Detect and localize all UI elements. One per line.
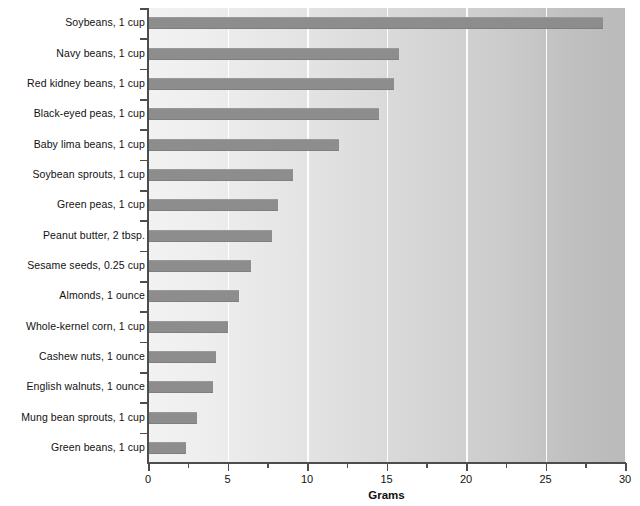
x-axis-minor-tick — [267, 463, 269, 468]
category-label: Peanut butter, 2 tbsp. — [0, 230, 145, 241]
y-axis-tick — [140, 311, 148, 313]
category-label: English walnuts, 1 ounce — [0, 381, 145, 392]
x-axis-tick — [307, 463, 309, 471]
y-axis-tick — [140, 251, 148, 253]
category-label: Red kidney beans, 1 cup — [0, 78, 145, 89]
category-label: Black-eyed peas, 1 cup — [0, 108, 145, 119]
y-axis-tick — [140, 342, 148, 344]
x-axis-tick — [387, 463, 389, 471]
category-label: Almonds, 1 ounce — [0, 290, 145, 301]
category-label-column: Soybeans, 1 cupNavy beans, 1 cupRed kidn… — [0, 0, 145, 463]
x-axis-tick-label: 30 — [619, 473, 631, 485]
y-axis-tick — [140, 69, 148, 71]
bar — [148, 412, 197, 424]
bar — [148, 290, 239, 302]
bar — [148, 139, 339, 151]
category-label: Navy beans, 1 cup — [0, 48, 145, 59]
bar — [148, 78, 394, 90]
bar — [148, 321, 228, 333]
category-label: Cashew nuts, 1 ounce — [0, 351, 145, 362]
category-label: Soybean sprouts, 1 cup — [0, 169, 145, 180]
bar — [148, 108, 379, 120]
bar — [148, 17, 603, 29]
category-label: Baby lima beans, 1 cup — [0, 139, 145, 150]
bar — [148, 351, 216, 363]
x-axis-tick-label: 25 — [539, 473, 551, 485]
x-axis-tick-label: 15 — [380, 473, 392, 485]
x-axis-tick-label: 20 — [460, 473, 472, 485]
y-axis-tick — [140, 220, 148, 222]
gridline — [307, 8, 309, 463]
x-axis-minor-tick — [188, 463, 190, 468]
protein-bar-chart: Soybeans, 1 cupNavy beans, 1 cupRed kidn… — [0, 0, 640, 506]
plot-area — [148, 8, 625, 463]
gridline — [466, 8, 468, 463]
category-label: Mung bean sprouts, 1 cup — [0, 412, 145, 423]
bar — [148, 230, 272, 242]
bar — [148, 169, 293, 181]
x-axis-tick-label: 0 — [145, 473, 151, 485]
gridline — [546, 8, 548, 463]
x-axis-tick-label: 5 — [224, 473, 230, 485]
x-axis-minor-tick — [347, 463, 349, 468]
y-axis-tick — [140, 129, 148, 131]
x-axis-title: Grams — [148, 489, 625, 501]
y-axis-line — [147, 8, 149, 463]
bar — [148, 442, 186, 454]
bar — [148, 199, 278, 211]
y-axis-tick — [140, 190, 148, 192]
x-axis-tick — [466, 463, 468, 471]
y-axis-tick — [140, 433, 148, 435]
x-axis-minor-tick — [506, 463, 508, 468]
category-label: Soybeans, 1 cup — [0, 17, 145, 28]
x-axis-minor-tick — [585, 463, 587, 468]
y-axis-tick — [140, 281, 148, 283]
y-axis-tick — [140, 99, 148, 101]
x-axis-minor-tick — [426, 463, 428, 468]
category-label: Green beans, 1 cup — [0, 442, 145, 453]
x-axis-tick — [625, 463, 627, 471]
bar — [148, 381, 213, 393]
y-axis-tick — [140, 38, 148, 40]
x-axis-tick — [228, 463, 230, 471]
y-axis-tick — [140, 160, 148, 162]
bar — [148, 260, 251, 272]
gridline — [625, 8, 627, 463]
gridline — [387, 8, 389, 463]
x-axis-tick-label: 10 — [301, 473, 313, 485]
category-label: Sesame seeds, 0.25 cup — [0, 260, 145, 271]
y-axis-tick — [140, 372, 148, 374]
bar — [148, 48, 399, 60]
x-axis-tick — [546, 463, 548, 471]
category-label: Whole-kernel corn, 1 cup — [0, 321, 145, 332]
y-axis-tick — [140, 8, 148, 10]
category-label: Green peas, 1 cup — [0, 199, 145, 210]
y-axis-tick — [140, 402, 148, 404]
x-axis-tick — [148, 463, 150, 471]
